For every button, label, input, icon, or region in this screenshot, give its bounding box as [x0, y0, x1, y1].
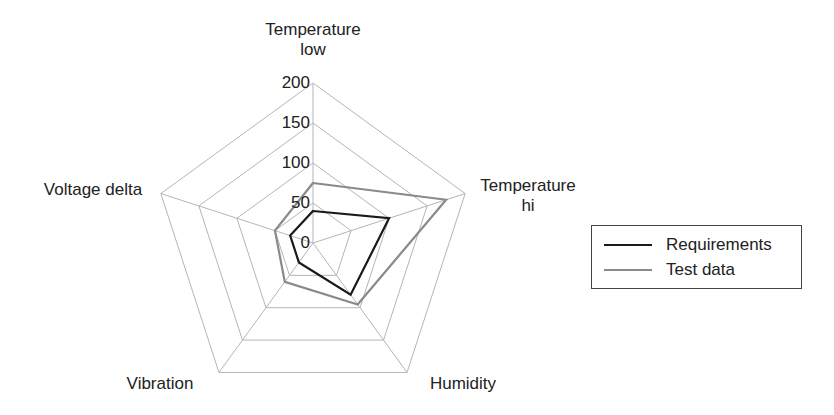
- axis-label-line: Temperature: [243, 20, 383, 40]
- axis-label-voltage-delta: Voltage delta: [28, 180, 158, 200]
- radar-chart: [0, 0, 834, 415]
- legend-label: Requirements: [666, 235, 772, 255]
- axis-label-line: low: [243, 40, 383, 60]
- tick-label-200: 200: [270, 73, 310, 93]
- axis-label-vibration: Vibration: [110, 374, 210, 394]
- axis-label-line: hi: [458, 196, 598, 216]
- legend-label: Test data: [666, 260, 735, 280]
- axis-label-humidity: Humidity: [408, 374, 518, 394]
- legend: Requirements Test data: [591, 225, 802, 289]
- legend-item-requirements: Requirements: [604, 234, 772, 256]
- axis-label-temperature-low: Temperature low: [243, 20, 383, 60]
- legend-item-test-data: Test data: [604, 259, 735, 281]
- axis-label-line: Voltage delta: [28, 180, 158, 200]
- tick-label-0: 0: [270, 233, 310, 253]
- tick-label-100: 100: [270, 153, 310, 173]
- legend-swatch-requirements: [604, 244, 652, 246]
- axis-label-line: Temperature: [458, 176, 598, 196]
- axis-label-line: Vibration: [110, 374, 210, 394]
- tick-label-50: 50: [270, 193, 310, 213]
- legend-swatch-test-data: [604, 269, 652, 271]
- axis-label-temperature-hi: Temperature hi: [458, 176, 598, 216]
- axis-label-line: Humidity: [408, 374, 518, 394]
- tick-label-150: 150: [270, 113, 310, 133]
- radar-grid: [161, 83, 465, 372]
